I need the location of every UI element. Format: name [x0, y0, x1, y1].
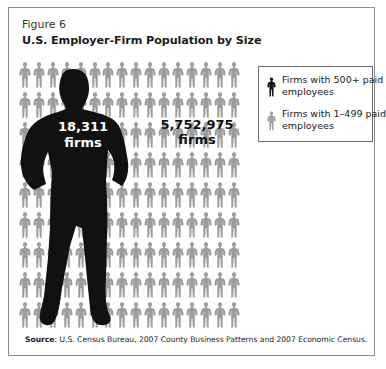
- person-silhouette-gray-icon: [130, 92, 142, 118]
- person-silhouette-gray-icon: [200, 272, 212, 298]
- person-silhouette-gray-icon: [186, 302, 198, 328]
- person-silhouette-gray-icon: [228, 92, 240, 118]
- person-silhouette-gray-icon: [130, 152, 142, 178]
- person-silhouette-gray-icon: [200, 212, 212, 238]
- person-silhouette-gray-icon: [186, 92, 198, 118]
- person-silhouette-gray-icon: [144, 92, 156, 118]
- legend-label-line2: employees: [282, 86, 383, 98]
- person-silhouette-gray-icon: [172, 302, 184, 328]
- legend: Firms with 500+ paid employees Firms wit…: [258, 66, 373, 142]
- person-silhouette-gray-icon: [158, 212, 170, 238]
- person-silhouette-gray-icon: [200, 302, 212, 328]
- person-silhouette-gray-icon: [228, 272, 240, 298]
- source-text: : U.S. Census Bureau, 2007 County Busine…: [55, 335, 368, 344]
- person-silhouette-gray-icon: [186, 272, 198, 298]
- person-silhouette-gray-icon: [130, 272, 142, 298]
- person-silhouette-gray-icon: [130, 242, 142, 268]
- person-silhouette-gray-icon: [172, 152, 184, 178]
- small-firm-count: 5,752,975: [150, 117, 244, 132]
- person-silhouette-gray-icon: [158, 242, 170, 268]
- person-silhouette-gray-icon: [172, 62, 184, 88]
- person-silhouette-gray-icon: [200, 152, 212, 178]
- small-firm-count-label: 5,752,975 firms: [150, 117, 244, 147]
- figure-title: U.S. Employer-Firm Population by Size: [22, 34, 261, 47]
- person-silhouette-gray-icon: [186, 62, 198, 88]
- person-silhouette-gray-icon: [144, 182, 156, 208]
- person-silhouette-gray-icon: [144, 272, 156, 298]
- large-firm-unit: firms: [48, 135, 118, 151]
- person-silhouette-gray-icon: [228, 182, 240, 208]
- person-silhouette-gray-icon: [267, 109, 276, 133]
- person-silhouette-black-icon: [267, 75, 276, 99]
- legend-label-line2: employees: [282, 120, 386, 132]
- person-silhouette-gray-icon: [214, 212, 226, 238]
- person-silhouette-gray-icon: [172, 92, 184, 118]
- person-silhouette-gray-icon: [144, 212, 156, 238]
- person-silhouette-gray-icon: [172, 212, 184, 238]
- person-silhouette-gray-icon: [200, 62, 212, 88]
- person-silhouette-gray-icon: [214, 182, 226, 208]
- person-silhouette-gray-icon: [130, 122, 142, 148]
- figure-label: Figure 6: [22, 18, 66, 31]
- legend-label-line1: Firms with 500+ paid: [282, 74, 383, 86]
- person-silhouette-gray-icon: [214, 242, 226, 268]
- person-silhouette-gray-icon: [228, 302, 240, 328]
- person-silhouette-gray-icon: [130, 302, 142, 328]
- legend-item-large-firms: Firms with 500+ paid employees: [265, 73, 373, 103]
- person-silhouette-gray-icon: [228, 62, 240, 88]
- person-silhouette-gray-icon: [158, 92, 170, 118]
- person-silhouette-gray-icon: [186, 212, 198, 238]
- person-silhouette-gray-icon: [214, 152, 226, 178]
- person-silhouette-gray-icon: [130, 212, 142, 238]
- legend-item-small-firms: Firms with 1–499 paid employees: [265, 107, 373, 137]
- large-firm-count-label: 18,311 firms: [48, 119, 118, 151]
- large-firm-silhouette-icon: [18, 68, 130, 328]
- person-silhouette-gray-icon: [172, 242, 184, 268]
- source-label: Source: [25, 335, 55, 344]
- person-silhouette-gray-icon: [228, 152, 240, 178]
- legend-label-large-firms: Firms with 500+ paid employees: [282, 74, 383, 98]
- small-firm-unit: firms: [150, 132, 244, 147]
- person-silhouette-gray-icon: [158, 182, 170, 208]
- person-silhouette-gray-icon: [214, 302, 226, 328]
- person-silhouette-gray-icon: [214, 62, 226, 88]
- person-silhouette-gray-icon: [144, 242, 156, 268]
- person-silhouette-gray-icon: [130, 182, 142, 208]
- person-silhouette-gray-icon: [130, 62, 142, 88]
- person-silhouette-gray-icon: [228, 212, 240, 238]
- person-silhouette-gray-icon: [200, 182, 212, 208]
- person-silhouette-gray-icon: [158, 152, 170, 178]
- legend-label-small-firms: Firms with 1–499 paid employees: [282, 108, 386, 132]
- person-silhouette-gray-icon: [186, 152, 198, 178]
- person-silhouette-gray-icon: [144, 302, 156, 328]
- person-silhouette-gray-icon: [158, 302, 170, 328]
- person-silhouette-gray-icon: [228, 242, 240, 268]
- person-silhouette-gray-icon: [200, 242, 212, 268]
- person-silhouette-gray-icon: [200, 92, 212, 118]
- person-silhouette-gray-icon: [186, 182, 198, 208]
- person-silhouette-gray-icon: [144, 152, 156, 178]
- person-silhouette-gray-icon: [214, 272, 226, 298]
- source-note: Source: U.S. Census Bureau, 2007 County …: [25, 335, 367, 344]
- legend-label-line1: Firms with 1–499 paid: [282, 108, 386, 120]
- person-silhouette-gray-icon: [144, 62, 156, 88]
- person-silhouette-gray-icon: [172, 272, 184, 298]
- person-silhouette-gray-icon: [158, 272, 170, 298]
- person-silhouette-gray-icon: [186, 242, 198, 268]
- person-silhouette-gray-icon: [172, 182, 184, 208]
- large-firm-count: 18,311: [48, 119, 118, 135]
- person-silhouette-gray-icon: [214, 92, 226, 118]
- person-silhouette-gray-icon: [158, 62, 170, 88]
